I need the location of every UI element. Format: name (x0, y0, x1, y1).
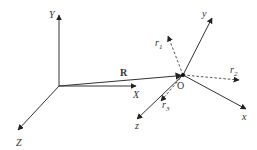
position-vector-r: R (59, 67, 182, 86)
local-y-label: y (201, 8, 207, 19)
local-frame: y x z r1 r2 r3 O (134, 8, 247, 131)
global-y-label: Y (49, 9, 56, 20)
global-z-label: Z (16, 137, 22, 148)
r3-label: r3 (162, 99, 170, 113)
local-origin-label: O (177, 80, 184, 91)
r2-label: r2 (230, 64, 238, 78)
r1-label: r1 (155, 37, 162, 51)
local-origin-point (181, 73, 185, 77)
local-y-axis (183, 18, 212, 75)
local-x-label: x (241, 111, 247, 122)
global-x-label: X (132, 89, 140, 100)
coordinate-diagram: Y Z X R y x z r1 r2 r3 O (0, 0, 257, 150)
global-z-axis (18, 86, 59, 130)
global-frame: Y Z X (16, 9, 140, 148)
local-z-label: z (134, 120, 139, 131)
r-vector-label: R (120, 67, 128, 78)
local-x-axis (183, 75, 246, 109)
r1-vector (168, 36, 183, 75)
